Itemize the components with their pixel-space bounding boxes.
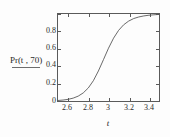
y-axis-tick-right — [156, 101, 159, 102]
y-tick-label-0.4: 0.4 — [46, 61, 56, 69]
plot-area — [57, 13, 160, 102]
x-tick-label-3.2: 3.2 — [124, 104, 134, 112]
y-axis-label: Pr(t , 70) — [6, 55, 46, 65]
y-tick-label-0.8: 0.8 — [46, 27, 56, 35]
curve-canvas — [58, 14, 159, 101]
y-axis-tick — [58, 101, 61, 102]
y-tick-label-0: 0 — [52, 97, 56, 105]
y-axis-legend: Pr(t , 70) — [6, 55, 46, 68]
x-tick-label-3: 3 — [106, 104, 110, 112]
x-axis-label: t — [107, 119, 110, 128]
data-series-line — [58, 14, 159, 100]
y-tick-label-0.2: 0.2 — [46, 79, 56, 87]
y-tick-label-0.6: 0.6 — [46, 44, 56, 52]
x-tick-label-2.8: 2.8 — [83, 104, 93, 112]
chart-screenshot: Pr(t , 70) 0.8 0.6 0.4 0.2 0 2.6 2.8 3 3… — [0, 0, 170, 137]
legend-line-swatch — [12, 67, 40, 68]
x-tick-label-2.6: 2.6 — [62, 104, 72, 112]
x-tick-label-3.4: 3.4 — [144, 104, 154, 112]
